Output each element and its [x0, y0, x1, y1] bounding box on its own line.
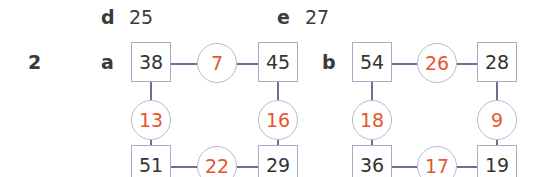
edge-top: 26 — [417, 43, 457, 83]
corner-top-right: 45 — [258, 42, 298, 82]
corner-top-left: 54 — [352, 42, 392, 82]
corner-bottom-right: 29 — [258, 145, 298, 177]
answer-value-d: 25 — [129, 7, 153, 27]
corner-bottom-left: 51 — [131, 145, 171, 177]
answer-value-e: 27 — [305, 7, 329, 27]
corner-top-right: 28 — [477, 42, 517, 82]
edge-bottom: 17 — [417, 146, 457, 177]
edge-top: 7 — [197, 43, 237, 83]
corner-bottom-right: 19 — [477, 145, 517, 177]
edge-right: 9 — [477, 100, 517, 140]
edge-left: 13 — [131, 100, 171, 140]
part-label-a: a — [101, 52, 114, 72]
corner-bottom-left: 36 — [352, 145, 392, 177]
corner-top-left: 38 — [131, 42, 171, 82]
answer-label-d: d — [101, 7, 115, 27]
edge-right: 16 — [258, 100, 298, 140]
question-number: 2 — [28, 52, 41, 72]
answer-label-e: e — [277, 7, 290, 27]
edge-bottom: 22 — [197, 146, 237, 177]
edge-left: 18 — [352, 100, 392, 140]
part-label-b: b — [322, 52, 336, 72]
